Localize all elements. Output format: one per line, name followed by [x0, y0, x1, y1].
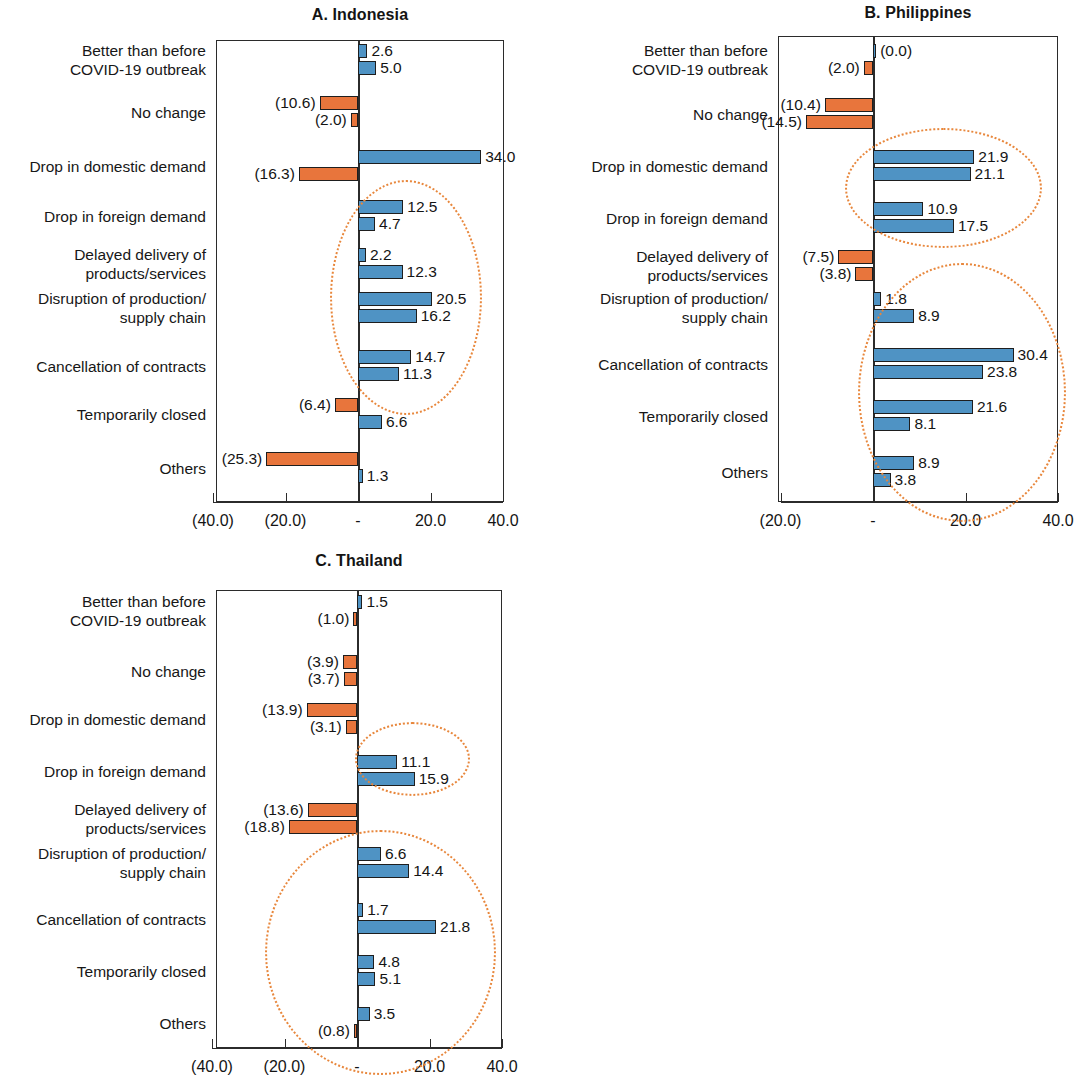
- axis-tick: [873, 493, 874, 502]
- x-axis-line: [781, 502, 1059, 503]
- bar: [358, 265, 403, 279]
- value-label: 8.9: [918, 308, 940, 324]
- value-label: 4.7: [379, 216, 401, 232]
- value-label: 2.2: [370, 247, 392, 263]
- bar: [357, 772, 415, 786]
- panel-thailand: C. Thailand Better than before COVID-19 …: [0, 545, 542, 1090]
- category-label: Delayed delivery of products/services: [0, 245, 206, 283]
- bar: [873, 309, 914, 323]
- bar: [357, 920, 436, 934]
- category-label: Disruption of production/ supply chain: [0, 289, 206, 327]
- value-label: (3.1): [260, 719, 342, 735]
- value-label: 1.5: [366, 594, 388, 610]
- value-label: 20.5: [436, 291, 466, 307]
- bar: [873, 292, 881, 306]
- axis-tick: [358, 493, 359, 502]
- value-label: 2.6: [371, 43, 393, 59]
- value-label: 17.5: [958, 218, 988, 234]
- value-label: 21.8: [440, 919, 470, 935]
- value-label: 10.9: [927, 201, 957, 217]
- category-label: Cancellation of contracts: [0, 357, 206, 376]
- category-label: Temporarily closed: [542, 407, 768, 426]
- value-label: 6.6: [385, 846, 407, 862]
- value-label: 12.3: [407, 264, 437, 280]
- value-label: 21.1: [975, 166, 1005, 182]
- value-label: 11.3: [403, 366, 432, 382]
- value-label: (0.0): [880, 43, 912, 59]
- value-label: 21.9: [978, 149, 1008, 165]
- bar: [358, 469, 363, 483]
- value-label: 14.7: [415, 349, 445, 365]
- value-label: 11.1: [401, 754, 430, 770]
- category-label: Temporarily closed: [0, 405, 206, 424]
- axis-tick: [966, 493, 967, 502]
- category-label: Disruption of production/ supply chain: [0, 844, 206, 882]
- bar: [357, 972, 375, 986]
- value-label: 8.1: [914, 416, 936, 432]
- value-label: (3.7): [258, 671, 340, 687]
- bar: [864, 61, 873, 75]
- bar: [358, 150, 481, 164]
- bar: [358, 367, 399, 381]
- value-label: 21.6: [977, 399, 1007, 415]
- category-label: Cancellation of contracts: [0, 910, 206, 929]
- value-label: (18.8): [203, 819, 285, 835]
- value-label: 5.0: [380, 60, 402, 76]
- value-label: (7.5): [752, 249, 834, 265]
- value-label: (10.4): [739, 97, 821, 113]
- axis-tick: [213, 493, 214, 502]
- value-label: 23.8: [987, 364, 1017, 380]
- category-label: Temporarily closed: [0, 962, 206, 981]
- bar: [266, 452, 358, 466]
- value-label: (6.4): [249, 397, 331, 413]
- x-axis-line: [212, 1048, 502, 1049]
- bar: [289, 820, 357, 834]
- bar: [358, 61, 376, 75]
- bar: [308, 803, 357, 817]
- value-label: 8.9: [918, 455, 940, 471]
- panel-philippines: B. Philippines Better than before COVID-…: [542, 0, 1084, 545]
- category-label: Delayed delivery of products/services: [542, 247, 768, 285]
- value-label: (14.5): [720, 114, 802, 130]
- bar: [873, 219, 954, 233]
- bar: [873, 167, 971, 181]
- bar: [357, 864, 409, 878]
- value-label: (16.3): [213, 166, 295, 182]
- bar: [346, 720, 357, 734]
- category-label: Drop in domestic demand: [0, 710, 206, 729]
- value-label: (0.8): [268, 1023, 350, 1039]
- category-label: Better than before COVID-19 outbreak: [542, 41, 768, 79]
- value-label: 4.8: [378, 954, 400, 970]
- value-label: 16.2: [421, 308, 451, 324]
- bar: [357, 955, 374, 969]
- value-label: 12.5: [407, 199, 437, 215]
- panel-title-indonesia: A. Indonesia: [216, 6, 504, 24]
- value-label: 3.5: [374, 1006, 396, 1022]
- category-label: Better than before COVID-19 outbreak: [0, 41, 206, 79]
- category-label: No change: [0, 103, 206, 122]
- value-label: 3.8: [895, 472, 917, 488]
- value-label: (3.9): [257, 654, 339, 670]
- category-label: Drop in foreign demand: [0, 207, 206, 226]
- bar: [357, 755, 397, 769]
- panel-title-philippines: B. Philippines: [778, 4, 1058, 22]
- bar: [873, 456, 914, 470]
- axis-tick-label: 40.0: [1013, 512, 1084, 530]
- bar: [353, 612, 357, 626]
- category-label: Delayed delivery of products/services: [0, 800, 206, 838]
- value-label: (10.6): [234, 95, 316, 111]
- category-label: Drop in domestic demand: [0, 157, 206, 176]
- value-label: (25.3): [180, 451, 262, 467]
- axis-tick-label: 40.0: [458, 512, 548, 530]
- axis-tick: [430, 1039, 431, 1048]
- bar: [873, 400, 973, 414]
- axis-tick: [781, 493, 782, 502]
- value-label: 6.6: [386, 414, 408, 430]
- bar: [358, 415, 382, 429]
- value-label: 1.7: [367, 902, 389, 918]
- bar: [343, 655, 357, 669]
- bar: [358, 350, 411, 364]
- category-label: Disruption of production/ supply chain: [542, 289, 768, 327]
- bar: [873, 202, 923, 216]
- axis-tick-label: (20.0): [736, 512, 826, 530]
